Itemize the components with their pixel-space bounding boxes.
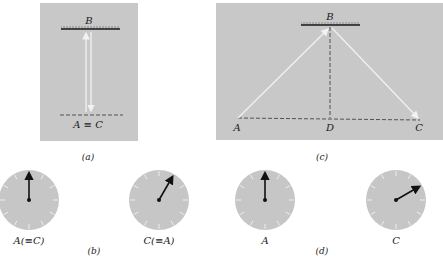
clock-d2-label: C (392, 235, 400, 246)
panel-a: B A ≡ C (40, 3, 138, 141)
panel-c-label-d: D (325, 122, 334, 133)
panel-a-bottom-label: A ≡ C (72, 119, 103, 130)
caption-b: (b) (88, 246, 101, 256)
clocks (0, 170, 426, 230)
caption-c: (c) (316, 152, 329, 162)
clock-d1-label: A (260, 235, 268, 246)
caption-a: (a) (82, 152, 95, 162)
clock-pivot (394, 198, 398, 202)
figure: B A ≡ C (a) B A D C (c) A(≡C) C(≡A) (b) … (0, 0, 443, 261)
panel-c-label-c: C (415, 122, 423, 133)
clock-d-c (366, 170, 426, 230)
caption-d: (d) (316, 246, 329, 256)
clock-d-a (235, 170, 295, 230)
clock-b-a (0, 170, 59, 230)
clock-pivot (27, 198, 31, 202)
clock-b1-label: A(≡C) (12, 235, 44, 246)
clock-pivot (263, 198, 267, 202)
clock-b2-label: C(≡A) (143, 235, 174, 246)
panel-a-mirror-label: B (84, 15, 92, 26)
clock-b-c (129, 170, 189, 230)
panel-c-mirror-label: B (325, 11, 333, 22)
clock-pivot (157, 198, 161, 202)
panel-c-label-a: A (232, 122, 240, 133)
panel-c: B A D C (216, 3, 443, 140)
